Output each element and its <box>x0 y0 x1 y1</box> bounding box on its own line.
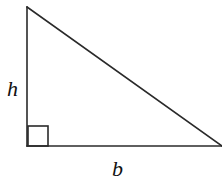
base-label: b <box>112 156 123 181</box>
height-label: h <box>7 76 18 101</box>
triangle <box>27 7 222 146</box>
hypotenuse <box>27 7 222 146</box>
right-angle-marker <box>28 126 48 146</box>
right-triangle-diagram: h b <box>0 0 222 191</box>
